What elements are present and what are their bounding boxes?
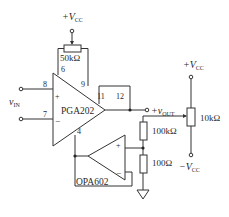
pga-name: PGA202 [61,106,95,116]
svg-text:8: 8 [43,80,47,89]
vcc-top-supply: +VCC [62,11,83,45]
svg-text:+VCC: +VCC [62,11,83,23]
svg-text:7: 7 [43,110,47,119]
svg-text:6: 6 [61,65,65,74]
svg-text:vIN: vIN [9,96,20,108]
gain-pot-value: 50kΩ [60,53,81,63]
svg-text:−VCC: −VCC [179,161,200,173]
svg-text:9: 9 [81,80,85,89]
divider-resistors: 100kΩ 100Ω [137,116,177,199]
offset-pot-value: 10kΩ [200,113,221,123]
vout-label: +v [151,105,163,116]
svg-text:100kΩ: 100kΩ [152,126,177,136]
svg-text:−: − [116,168,121,178]
svg-text:11: 11 [97,92,105,101]
opamp-name: OPA602 [76,177,109,187]
svg-text:100Ω: 100Ω [152,158,173,168]
offset-potentiometer: +VCC 10kΩ −VCC [143,59,221,173]
svg-text:+VCC: +VCC [183,59,204,71]
svg-text:+: + [55,92,60,101]
svg-text:+: + [116,141,121,150]
circuit-diagram: +VCC 50kΩ + − PGA202 6 9 11 12 4 8 7 vIN [0,0,229,217]
svg-text:+vOUT: +vOUT [151,105,175,117]
resistor-100 [140,155,147,173]
ground-symbol [137,190,149,199]
resistor-100k [140,122,147,140]
output-network: +vOUT [99,86,175,117]
opa602-buffer: + − OPA602 [73,135,143,187]
input-terminals: 8 7 vIN [9,80,53,121]
svg-text:−: − [55,116,60,126]
svg-text:4: 4 [77,127,81,136]
svg-text:12: 12 [116,92,124,101]
